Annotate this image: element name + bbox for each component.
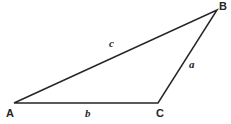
side-label-c: c xyxy=(109,38,114,49)
vertex-label-a: A xyxy=(6,108,14,119)
triangle-outline xyxy=(14,10,217,103)
side-label-a: a xyxy=(189,59,195,70)
side-label-b: b xyxy=(85,108,91,119)
vertex-label-b: B xyxy=(219,1,227,12)
vertex-label-c: C xyxy=(156,108,164,119)
triangle-diagram-canvas: A B C a b c xyxy=(0,0,231,124)
triangle-shape xyxy=(0,0,231,124)
